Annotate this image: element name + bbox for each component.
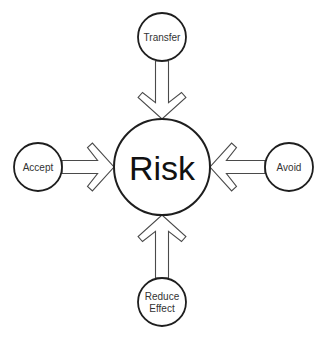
- accept-label: Accept: [23, 162, 54, 173]
- arrow-accept-to-risk: [62, 143, 114, 191]
- avoid-label: Avoid: [277, 162, 302, 173]
- transfer-label: Transfer: [144, 32, 182, 43]
- risk-label: Risk: [129, 149, 196, 187]
- node-avoid: Avoid: [265, 143, 313, 191]
- center-node: Risk: [114, 119, 210, 215]
- arrow-reduce-effect-to-risk: [138, 215, 186, 278]
- reduce-effect-label: Reduce: [145, 291, 180, 302]
- node-reduce-effect: ReduceEffect: [138, 278, 186, 326]
- reduce-effect-circle: [138, 278, 186, 326]
- risk-management-diagram: Risk TransferAcceptAvoidReduceEffect: [0, 0, 325, 339]
- arrow-transfer-to-risk: [138, 61, 186, 119]
- node-accept: Accept: [14, 143, 62, 191]
- arrow-avoid-to-risk: [210, 143, 265, 191]
- reduce-effect-label: Effect: [149, 303, 175, 314]
- node-transfer: Transfer: [138, 13, 186, 61]
